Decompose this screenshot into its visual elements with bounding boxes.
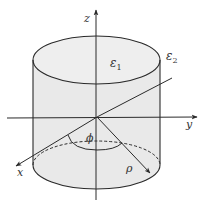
y-axis-label: y: [185, 118, 193, 131]
x-axis-label: x: [17, 166, 24, 179]
epsilon-2-label: ε2: [166, 49, 178, 65]
diagram-canvas: z y x ε1 ε2 ϕ ρ: [0, 0, 203, 208]
phi-label: ϕ: [86, 132, 94, 145]
cylinder-diagram: z y x ε1 ε2 ϕ ρ: [0, 0, 203, 208]
z-axis-label: z: [83, 12, 90, 25]
rho-label: ρ: [125, 162, 133, 175]
